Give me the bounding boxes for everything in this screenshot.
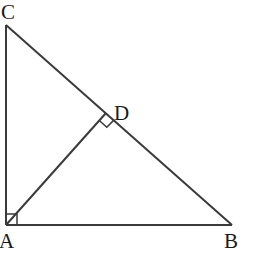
label-d: D (114, 101, 129, 125)
right-angle-mark-d (99, 120, 114, 128)
triangle-diagram: C D A B (0, 0, 254, 257)
label-c: C (1, 0, 15, 24)
label-a: A (0, 229, 15, 253)
altitude-ad (6, 113, 106, 225)
label-b: B (224, 229, 238, 253)
side-bc (6, 25, 232, 225)
